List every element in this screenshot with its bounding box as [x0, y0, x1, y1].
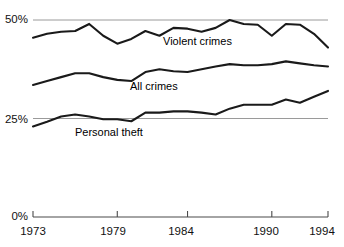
series-label-all-crimes: All crimes: [130, 81, 178, 92]
series-label-violent-crimes: Violent crimes: [163, 36, 232, 47]
x-tick-label-1990: 1990: [243, 226, 289, 238]
x-tick-label-1973: 1973: [10, 226, 56, 238]
x-axis: [33, 211, 328, 217]
x-tick-label-1994: 1994: [300, 226, 344, 238]
chart-container: 50% 25% 0% 1973 1979 1984 1990 1994 Viol…: [0, 0, 344, 247]
series-line-all-crimes: [33, 61, 328, 85]
y-tick-label-50: 50%: [0, 14, 28, 26]
y-tick-label-25: 25%: [0, 114, 28, 126]
x-axis-ticks: [33, 211, 328, 217]
series-label-personal-theft: Personal theft: [75, 127, 143, 138]
x-tick-label-1984: 1984: [158, 226, 204, 238]
y-tick-label-0: 0%: [0, 211, 28, 223]
x-tick-label-1979: 1979: [90, 226, 136, 238]
series-line-personal-theft: [33, 91, 328, 126]
